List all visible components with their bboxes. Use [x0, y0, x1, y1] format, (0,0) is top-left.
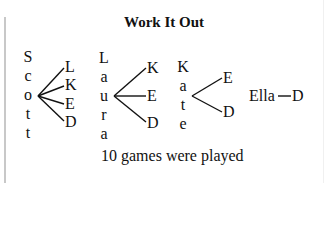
- tree-ella-name: Ella: [249, 88, 275, 104]
- scott-branch-k: K: [65, 77, 77, 93]
- scott-branch-l: L: [65, 59, 75, 75]
- kate-branch-d: D: [223, 104, 235, 120]
- scott-branch-d: D: [65, 114, 77, 130]
- scott-branch-e: E: [65, 96, 75, 112]
- games-caption: 10 games were played: [101, 147, 244, 165]
- laura-branch-e: E: [147, 88, 157, 104]
- ella-branch-d: D: [292, 88, 304, 104]
- laura-branch-d: D: [147, 115, 159, 131]
- kate-branch-e: E: [223, 70, 233, 86]
- laura-branch-k: K: [147, 60, 159, 76]
